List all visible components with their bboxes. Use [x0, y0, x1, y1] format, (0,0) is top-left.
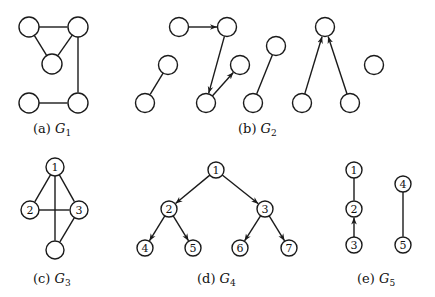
- node-g2-x: [293, 94, 312, 113]
- directed-edge-g4-1-2: [176, 175, 210, 203]
- edge-g2-t-u: [150, 73, 163, 94]
- node-g2-q: [218, 18, 237, 37]
- node-label: 1: [213, 164, 220, 177]
- edge-g3-1-3: [59, 175, 74, 202]
- node-circle: [19, 93, 39, 113]
- node-label: 1: [351, 164, 358, 177]
- directed-edge-g4-2-5: [173, 216, 188, 241]
- node-circle: [293, 94, 312, 113]
- node-circle: [170, 18, 189, 37]
- node-g1-e: [68, 93, 88, 113]
- node-label: 6: [237, 242, 244, 255]
- edge-g1-a-c: [34, 35, 46, 55]
- directed-edge-g4-3-6: [245, 216, 261, 241]
- edge-g3-1-2: [35, 175, 51, 202]
- graph-figure: 123123456712345 (a) G1(b) G2(c) G3(d) G4…: [0, 0, 435, 297]
- node-g3-1: 1: [46, 158, 64, 176]
- node-g3-2: 2: [21, 201, 39, 219]
- node-circle: [19, 17, 39, 37]
- node-g5-4: 4: [395, 176, 411, 192]
- node-circle: [42, 54, 62, 74]
- node-label: 3: [351, 239, 358, 252]
- node-g1-c: [42, 54, 62, 74]
- node-label: 2: [351, 203, 358, 216]
- directed-edge-g2-r-s: [212, 72, 233, 95]
- node-g2-u: [136, 94, 155, 113]
- edge-g1-b-c: [58, 35, 72, 55]
- node-circle: [316, 18, 335, 37]
- directed-edge-g2-x-y: [305, 37, 322, 94]
- node-g4-1: 1: [208, 162, 224, 178]
- edges-g3: [35, 175, 75, 242]
- node-g3-4: [46, 241, 64, 259]
- node-circle: [159, 56, 178, 75]
- node-g4-5: 5: [185, 240, 201, 256]
- node-label: 2: [27, 204, 34, 217]
- directed-edge-g4-3-7: [269, 216, 284, 241]
- node-label: 5: [400, 239, 407, 252]
- caption-g5: (e) G5: [357, 271, 395, 288]
- node-g2-v: [267, 37, 286, 56]
- node-g1-d: [19, 93, 39, 113]
- node-g2-z: [341, 94, 360, 113]
- caption-g2: (b) G2: [238, 121, 277, 138]
- node-g2-iso: [365, 56, 384, 75]
- node-g5-3: 3: [346, 237, 362, 253]
- node-circle: [68, 17, 88, 37]
- node-g4-4: 4: [137, 240, 153, 256]
- node-circle: [136, 94, 155, 113]
- edge-g2-v-w: [257, 55, 273, 94]
- node-g4-3: 3: [257, 201, 273, 217]
- node-circle: [68, 93, 88, 113]
- node-g2-s: [231, 56, 250, 75]
- node-label: 3: [76, 204, 83, 217]
- caption-g1: (a) G1: [33, 121, 71, 138]
- captions-layer: (a) G1(b) G2(c) G3(d) G4(e) G5: [33, 121, 395, 288]
- node-g5-5: 5: [395, 237, 411, 253]
- node-circle: [244, 94, 263, 113]
- node-g2-r: [197, 94, 216, 113]
- node-g5-2: 2: [346, 201, 362, 217]
- directed-edge-g4-2-4: [149, 216, 164, 241]
- node-g2-p: [170, 18, 189, 37]
- node-label: 4: [142, 242, 149, 255]
- directed-edge-g2-z-y: [328, 36, 347, 93]
- edge-g3-3-4: [60, 218, 74, 242]
- node-g5-1: 1: [346, 162, 362, 178]
- node-g4-7: 7: [281, 240, 297, 256]
- node-label: 7: [286, 242, 293, 255]
- node-g3-3: 3: [70, 201, 88, 219]
- node-circle: [267, 37, 286, 56]
- node-circle: [231, 56, 250, 75]
- node-circle: [197, 94, 216, 113]
- node-g4-6: 6: [232, 240, 248, 256]
- node-g1-b: [68, 17, 88, 37]
- node-label: 1: [52, 161, 59, 174]
- node-circle: [341, 94, 360, 113]
- node-label: 2: [166, 203, 173, 216]
- node-label: 5: [190, 242, 197, 255]
- nodes-g2: [136, 18, 384, 113]
- caption-g4: (d) G4: [197, 271, 236, 288]
- node-circle: [46, 241, 64, 259]
- node-g2-w: [244, 94, 263, 113]
- node-circle: [218, 18, 237, 37]
- node-label: 3: [262, 203, 269, 216]
- directed-edge-g4-1-3: [222, 175, 258, 204]
- caption-g3: (c) G3: [33, 271, 71, 288]
- node-g2-y: [316, 18, 335, 37]
- node-g4-2: 2: [161, 201, 177, 217]
- node-circle: [365, 56, 384, 75]
- node-g1-a: [19, 17, 39, 37]
- nodes-g5: 12345: [346, 162, 411, 253]
- node-g2-t: [159, 56, 178, 75]
- nodes-g4: 1234567: [137, 162, 297, 256]
- node-label: 4: [400, 178, 407, 191]
